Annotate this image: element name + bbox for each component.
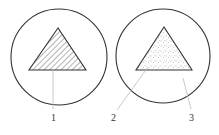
right-figure: 2 3 bbox=[111, 9, 210, 123]
right-dotted-triangle bbox=[136, 27, 192, 70]
label-1: 1 bbox=[51, 112, 56, 123]
diagram-canvas: 1 2 3 bbox=[0, 0, 219, 135]
label-3: 3 bbox=[189, 112, 194, 123]
left-figure: 1 bbox=[11, 9, 107, 123]
left-hatched-triangle bbox=[29, 28, 86, 70]
leader-line-3 bbox=[183, 78, 191, 109]
leader-line-2 bbox=[117, 67, 148, 110]
label-2: 2 bbox=[111, 112, 116, 123]
